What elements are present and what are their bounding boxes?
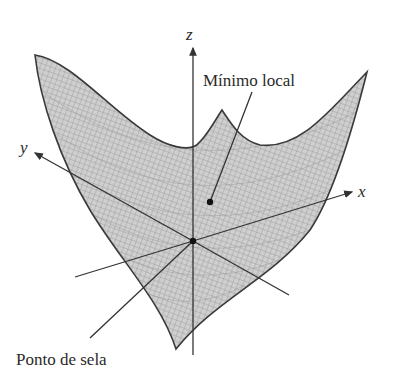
saddle-point-label: Ponto de sela [16, 350, 107, 369]
y-axis-label: y [18, 138, 28, 157]
saddle-point [190, 238, 196, 244]
x-axis-label: x [357, 182, 366, 201]
local-minimum-label: Mínimo local [203, 71, 295, 90]
z-axis-label: z [185, 25, 193, 44]
local-minimum-point [207, 199, 213, 205]
surface [35, 55, 367, 349]
surface-diagram: z y x Mínimo local Ponto de sela [0, 0, 393, 388]
